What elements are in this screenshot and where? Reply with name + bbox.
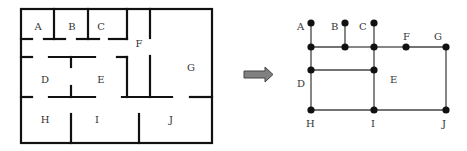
- graph-node-e: [370, 66, 377, 73]
- room-label-e: E: [97, 74, 104, 85]
- graph-nodes: [307, 19, 449, 113]
- graph-node-c: [370, 19, 377, 26]
- arrow-icon: [244, 67, 273, 82]
- graph-node: [307, 43, 314, 50]
- floorplan-room-labels: ABCFGDEHIJ: [33, 21, 195, 125]
- graph-edges: [311, 23, 446, 110]
- graph-node-b: [341, 19, 348, 26]
- graph-node-j: [442, 106, 449, 113]
- floorplan-to-graph-diagram: ABCFGDEHIJ ABCFGDEHIJ: [0, 0, 467, 151]
- graph-node: [341, 43, 348, 50]
- graph-label-b: B: [331, 21, 338, 32]
- graph-node-f: [402, 43, 409, 50]
- room-label-d: D: [41, 74, 49, 85]
- graph-label-i: I: [371, 118, 375, 129]
- graph-label-h: H: [306, 118, 315, 129]
- graph-label-j: J: [441, 118, 446, 129]
- floorplan: [21, 9, 212, 143]
- graph-label-d: D: [297, 78, 305, 89]
- room-label-b: B: [68, 21, 75, 32]
- graph-label-e: E: [390, 74, 397, 85]
- graph-node-h: [307, 106, 314, 113]
- graph-label-g: G: [434, 31, 442, 42]
- graph-node-g: [442, 43, 449, 50]
- graph-node: [370, 43, 377, 50]
- graph-labels: ABCFGDEHIJ: [296, 21, 446, 129]
- room-label-a: A: [33, 21, 42, 32]
- graph-label-f: F: [403, 31, 410, 42]
- room-label-h: H: [41, 114, 50, 125]
- room-label-j: J: [168, 114, 173, 125]
- graph-label-a: A: [296, 21, 305, 32]
- room-label-c: C: [97, 21, 105, 32]
- floorplan-outer-wall: [21, 9, 212, 143]
- graph-label-c: C: [359, 21, 367, 32]
- graph-node-a: [307, 19, 314, 26]
- graph-node-i: [370, 106, 377, 113]
- room-label-g: G: [187, 62, 195, 73]
- room-label-i: I: [95, 114, 99, 125]
- room-label-f: F: [136, 38, 143, 49]
- graph-node-d: [307, 66, 314, 73]
